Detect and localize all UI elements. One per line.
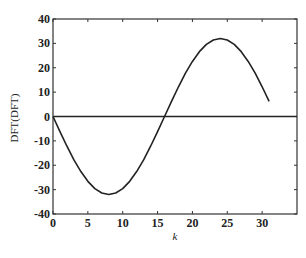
y-tick-label: 40 <box>38 12 50 26</box>
y-tick-label: 30 <box>38 36 50 50</box>
y-tick-label: 0 <box>44 110 50 124</box>
y-tick-label: 20 <box>38 61 50 75</box>
x-tick-label: 10 <box>117 216 129 230</box>
y-tick-label: 10 <box>38 85 50 99</box>
y-tick-label: -10 <box>34 134 50 148</box>
x-tick-label: 20 <box>186 216 198 230</box>
chart: 051015202530-40-30-20-10010203040 DFT(DF… <box>0 0 306 258</box>
x-tick-label: 5 <box>85 216 91 230</box>
y-tick-label: -20 <box>34 158 50 172</box>
x-tick-label: 0 <box>50 216 56 230</box>
y-tick-label: -40 <box>34 207 50 221</box>
y-axis-label: DFT(DFT) <box>8 93 21 142</box>
x-tick-label: 30 <box>256 216 268 230</box>
x-tick-label: 15 <box>152 216 164 230</box>
y-tick-label: -30 <box>34 183 50 197</box>
x-axis-label: k <box>173 230 179 242</box>
x-tick-label: 25 <box>221 216 233 230</box>
